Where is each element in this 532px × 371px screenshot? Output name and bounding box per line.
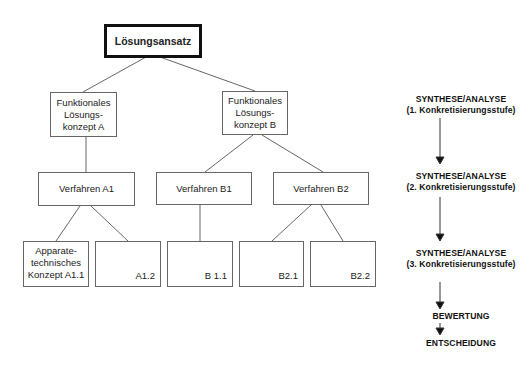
edge-B-B2 — [262, 135, 323, 172]
arrow-down-icon — [436, 157, 444, 164]
node-verfahren-b1: Verfahren B1 — [156, 172, 252, 205]
stage-title: BEWERTUNG — [390, 311, 532, 322]
node-concept-a1-2: A1.2 — [95, 241, 161, 287]
node-label: B 1.1 — [205, 270, 227, 282]
node-concept-b1-1: B 1.1 — [167, 241, 233, 287]
node-concept-b2-1: B2.1 — [239, 241, 304, 287]
stage-subtitle: (3. Konkretisierungsstufe) — [390, 259, 532, 270]
edge-B2-B2.1 — [272, 205, 311, 241]
edge-root-A — [83, 57, 146, 92]
edge-A1-A1.1 — [56, 206, 80, 241]
stage-title: SYNTHESE/ANALYSE — [390, 171, 532, 182]
arrow-down-icon — [436, 302, 444, 309]
stage-title: ENTSCHEIDUNG — [390, 338, 532, 349]
arrow-down-icon — [436, 234, 444, 241]
node-label: B2.1 — [278, 270, 298, 282]
edge-A1-A1.2 — [91, 206, 128, 241]
node-label: Lösungsansatz — [115, 35, 191, 47]
edge-root-B — [160, 57, 255, 91]
node-root: Lösungsansatz — [104, 24, 202, 58]
node-label: Funktionales Lösungs- konzept A — [57, 97, 111, 133]
stage-title: SYNTHESE/ANALYSE — [390, 94, 532, 105]
node-concept-b2-2: B2.2 — [310, 241, 376, 287]
node-label: Funktionales Lösungs- konzept B — [228, 95, 282, 131]
node-verfahren-b2: Verfahren B2 — [273, 172, 369, 205]
node-concept-a: Funktionales Lösungs- konzept A — [50, 92, 117, 137]
stage-subtitle: (2. Konkretisierungsstufe) — [390, 182, 532, 193]
node-label: A1.2 — [135, 270, 155, 282]
stage-bewertung: BEWERTUNG — [390, 311, 532, 322]
node-label: Apparate- technisches Konzept A1.1 — [28, 245, 85, 281]
arrow-down-icon — [436, 328, 444, 335]
stage-subtitle: (1. Konkretisierungsstufe) — [390, 105, 532, 116]
node-verfahren-a1: Verfahren A1 — [38, 172, 135, 206]
node-label: Verfahren A1 — [59, 183, 114, 195]
node-concept-b: Funktionales Lösungs- konzept B — [222, 91, 288, 135]
stage-synthesis-2: SYNTHESE/ANALYSE (2. Konkretisierungsstu… — [390, 171, 532, 193]
node-label: Verfahren B2 — [293, 183, 348, 195]
edge-B2-B2.2 — [321, 205, 343, 241]
node-label: Verfahren B1 — [176, 183, 231, 195]
edge-B-B1 — [205, 135, 253, 172]
node-concept-a1-1: Apparate- technisches Konzept A1.1 — [23, 241, 89, 287]
stage-entscheidung: ENTSCHEIDUNG — [390, 338, 532, 349]
stage-synthesis-3: SYNTHESE/ANALYSE (3. Konkretisierungsstu… — [390, 248, 532, 270]
stage-title: SYNTHESE/ANALYSE — [390, 248, 532, 259]
stage-synthesis-1: SYNTHESE/ANALYSE (1. Konkretisierungsstu… — [390, 94, 532, 116]
node-label: B2.2 — [350, 270, 370, 282]
